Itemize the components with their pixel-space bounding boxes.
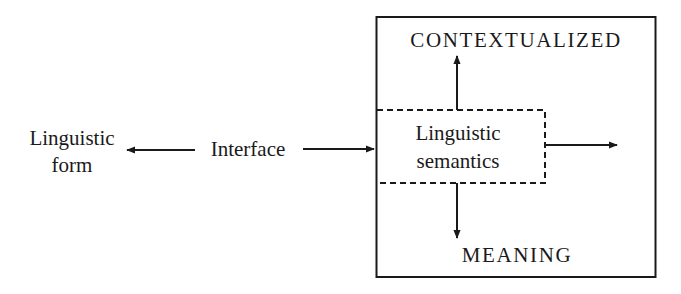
linguistic-semantics-line1: Linguistic bbox=[415, 121, 500, 145]
diagram-canvas: Linguistic form Interface CONTEXTUALIZED… bbox=[0, 0, 681, 294]
linguistic-form-label: Linguistic form bbox=[29, 126, 114, 177]
meaning-label: MEANING bbox=[462, 243, 572, 267]
contextualized-label: CONTEXTUALIZED bbox=[410, 28, 621, 52]
interface-label: Interface bbox=[211, 137, 286, 161]
linguistic-semantics-line2: semantics bbox=[417, 149, 500, 173]
contextualized-meaning-box bbox=[377, 17, 656, 277]
linguistic-form-line2: form bbox=[52, 153, 93, 177]
linguistic-form-line1: Linguistic bbox=[29, 126, 114, 150]
linguistic-semantics-label: Linguistic semantics bbox=[415, 121, 500, 173]
